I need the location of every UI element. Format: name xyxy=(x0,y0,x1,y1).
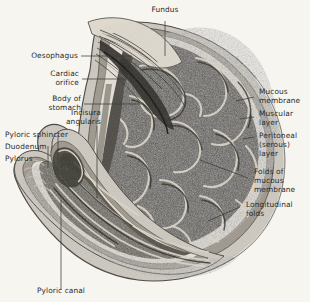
label-folds-mucous-line3: membrane xyxy=(254,186,295,194)
label-oesophagus: Oesophagus xyxy=(0,52,78,60)
label-muscular-layer-line2: layer xyxy=(259,119,278,127)
label-peritoneal-layer-line3: layer xyxy=(259,150,278,158)
label-incisura-angularis-line2: angularis xyxy=(0,118,101,126)
label-pyloric-sphincter: Pyloric sphincter xyxy=(5,131,68,139)
label-longitudinal-folds-line2: folds xyxy=(246,210,264,218)
label-pylorus: Pylorus xyxy=(5,155,33,163)
label-mucous-membrane-line2: membrane xyxy=(259,97,300,105)
label-duodenum: Duodenum xyxy=(5,143,47,151)
label-cardiac-orifice-line2: orifice xyxy=(0,79,79,87)
anatomy-plate: Fundus Oesophagus Cardiac orifice Body o… xyxy=(0,0,310,302)
label-fundus: Fundus xyxy=(135,6,195,14)
label-pyloric-canal: Pyloric canal xyxy=(31,287,91,295)
